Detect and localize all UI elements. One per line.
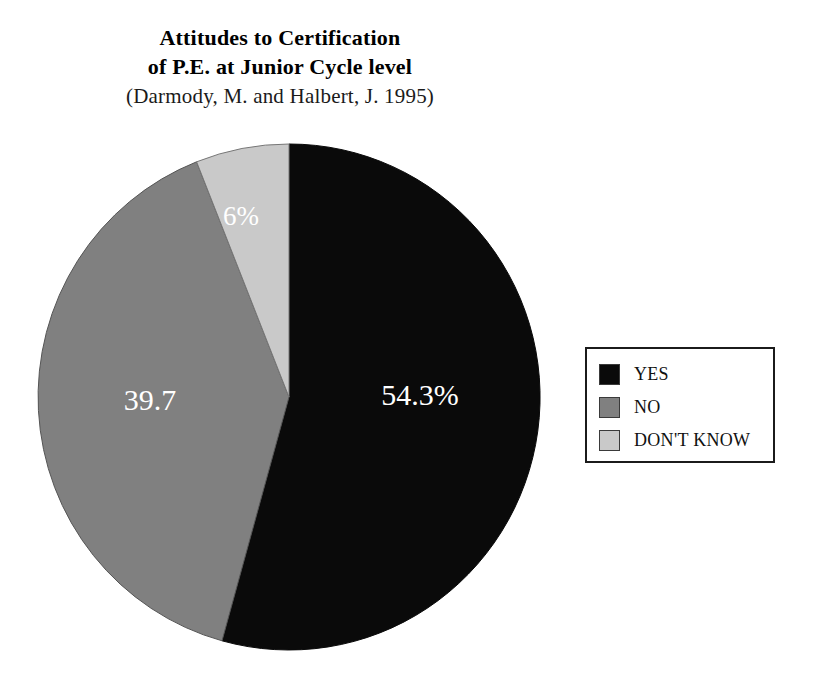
pie-label-no: 39.7	[124, 383, 177, 416]
legend-label-no: NO	[634, 397, 661, 418]
pie-label-dont-know: 6%	[223, 201, 259, 231]
pie-chart: 54.3% 39.7 6%	[37, 143, 543, 651]
pie-label-yes: 54.3%	[381, 378, 459, 411]
legend-swatch-yes	[599, 364, 620, 385]
chart-title-block: Attitudes to Certification of P.E. at Ju…	[0, 24, 560, 110]
legend-label-yes: YES	[634, 364, 669, 385]
page-title-line-1: Attitudes to Certification	[0, 24, 560, 53]
chart-source-citation: (Darmody, M. and Halbert, J. 1995)	[0, 83, 560, 110]
legend-item-yes[interactable]: YES	[599, 358, 773, 391]
legend-label-dont-know: DON'T KNOW	[634, 430, 750, 451]
legend-swatch-dont-know	[599, 430, 620, 451]
pie-chart-svg: 54.3% 39.7 6%	[37, 143, 543, 651]
legend-swatch-no	[599, 397, 620, 418]
chart-legend: YES NO DON'T KNOW	[585, 347, 775, 463]
legend-item-dont-know[interactable]: DON'T KNOW	[599, 424, 773, 457]
chart-page: Attitudes to Certification of P.E. at Ju…	[0, 0, 814, 674]
page-title-line-2: of P.E. at Junior Cycle level	[0, 53, 560, 82]
legend-item-no[interactable]: NO	[599, 391, 773, 424]
